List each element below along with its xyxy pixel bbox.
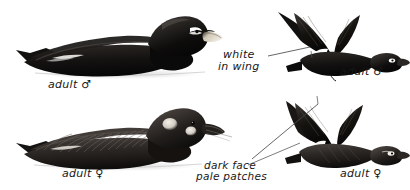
female-far-wing [286, 101, 324, 146]
illustration-plate: adult ♂ adult ♀ white in wing dark face … [0, 0, 410, 190]
swimming-adult-female-figure [16, 108, 232, 171]
flying-adult-female-figure [285, 101, 410, 168]
label-flying-adult-male: adult ♂ [340, 66, 384, 78]
female-body [24, 138, 184, 170]
flying-female-face-patch [388, 151, 395, 155]
female-bill [202, 124, 226, 135]
male-far-wing [278, 12, 324, 52]
dark-face-leader-upper [252, 104, 318, 159]
male-head [148, 16, 208, 56]
female-wing-white-patch [314, 141, 326, 151]
flying-male-eye-patch [389, 59, 395, 63]
male-wing-white-patch [315, 49, 328, 59]
white-in-wing-leader [268, 47, 310, 56]
swimming-adult-male-figure [16, 16, 223, 79]
male-right-wing [334, 15, 360, 57]
label-swimming-adult-female: adult ♀ [62, 168, 104, 180]
label-swimming-adult-male: adult ♂ [48, 79, 92, 91]
male-body [24, 45, 186, 77]
male-near-wing [294, 13, 332, 58]
male-bill [203, 32, 224, 42]
label-white-in-wing-line2: in wing [218, 61, 260, 73]
female-loral-patch [186, 126, 197, 135]
female-near-wing [295, 103, 333, 149]
flying-female-body [299, 144, 380, 168]
waterline-female [32, 161, 204, 172]
female-rear-patch [163, 118, 178, 130]
female-feather-barring [44, 130, 172, 152]
female-right-wing [337, 105, 363, 147]
flying-female-head [370, 146, 402, 165]
female-head [146, 108, 206, 148]
male-eye-patch [190, 27, 202, 32]
label-dark-face-line2: pale patches [196, 171, 267, 183]
label-flying-adult-female: adult ♀ [340, 168, 382, 180]
